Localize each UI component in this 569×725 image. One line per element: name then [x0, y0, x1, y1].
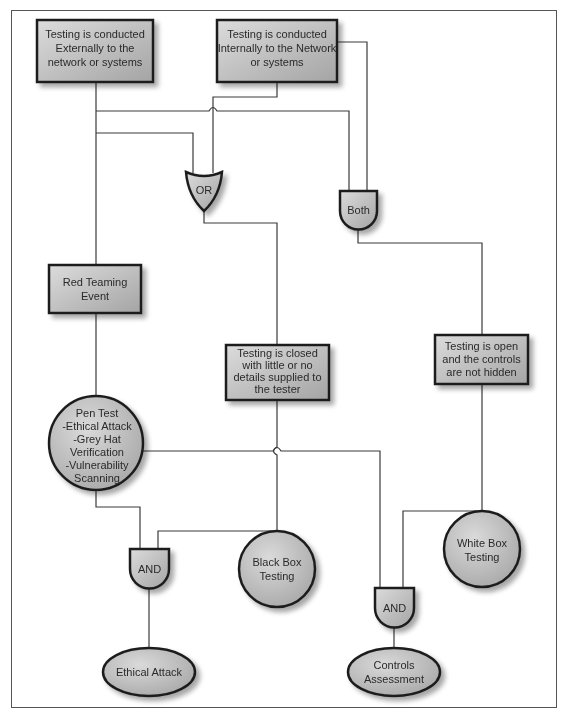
box-closed-line-4: the tester — [255, 383, 301, 395]
box-closed-line-2: with little or no — [241, 359, 312, 371]
box-open-line-3: are not hidden — [446, 366, 516, 378]
box-internal-testing: Testing is conducted Internally to the N… — [217, 20, 337, 82]
gate-or: OR — [186, 172, 222, 211]
gate-and-right: AND — [375, 588, 414, 628]
connector-internal-to-both — [337, 42, 367, 192]
gate-both-label: Both — [347, 204, 370, 216]
box-closed-line-1: Testing is closed — [237, 347, 318, 359]
box-closed-line-3: details supplied to — [233, 371, 321, 383]
connector-pentest-to-and-left — [96, 489, 140, 550]
connector-or-to-closed — [204, 211, 277, 345]
controls-assessment-line-2: Assessment — [364, 673, 424, 685]
connector-closed-to-blackbox — [274, 400, 278, 530]
box-internal-line-3: or systems — [250, 56, 304, 68]
white-box-line-2: Testing — [465, 551, 500, 563]
circle-black-box-testing: Black Box Testing — [239, 531, 315, 607]
box-red-team-line-2: Event — [81, 290, 109, 302]
black-box-line-1: Black Box — [253, 556, 302, 568]
gate-both: Both — [340, 191, 377, 230]
pen-test-line-3: -Grey Hat — [73, 433, 121, 445]
controls-assessment-line-1: Controls — [374, 659, 415, 671]
gate-or-label: OR — [196, 184, 213, 196]
ellipse-controls-assessment: Controls Assessment — [348, 648, 440, 696]
connector-external-to-both — [96, 108, 349, 193]
connector-internal-to-or — [213, 82, 277, 173]
box-external-line-2: Externally to the — [56, 42, 135, 54]
box-open-testing: Testing is open and the controls are not… — [435, 335, 528, 384]
box-open-line-1: Testing is open — [445, 340, 518, 352]
ethical-attack-label: Ethical Attack — [116, 666, 183, 678]
pen-test-line-2: -Ethical Attack — [62, 420, 132, 432]
box-external-line-3: network or systems — [48, 56, 143, 68]
box-open-line-2: and the controls — [442, 353, 521, 365]
circle-white-box-testing: White Box Testing — [444, 511, 520, 587]
pen-test-line-6: Scanning — [74, 472, 120, 484]
pen-test-line-4: Verification — [70, 446, 124, 458]
gate-and-left-label: AND — [138, 563, 161, 575]
black-box-line-2: Testing — [260, 570, 295, 582]
pen-test-line-5: -Vulnerability — [65, 459, 129, 471]
box-red-team-line-1: Red Teaming — [63, 276, 128, 288]
box-external-line-1: Testing is conducted — [45, 28, 145, 40]
gate-and-left: AND — [130, 549, 169, 589]
pen-test-line-1: Pen Test — [76, 407, 119, 419]
testing-types-diagram: Testing is conducted Externally to the n… — [0, 0, 569, 725]
gate-and-right-label: AND — [383, 602, 406, 614]
connector-both-to-open — [358, 230, 482, 335]
circle-pen-test: Pen Test -Ethical Attack -Grey Hat Verif… — [49, 396, 143, 490]
box-red-teaming: Red Teaming Event — [49, 265, 141, 313]
box-closed-testing: Testing is closed with little or no deta… — [226, 345, 329, 400]
connector-external-to-or — [96, 133, 193, 173]
box-internal-line-1: Testing is conducted — [227, 28, 327, 40]
box-internal-line-2: Internally to the Network — [218, 42, 337, 54]
box-external-testing: Testing is conducted Externally to the n… — [37, 20, 153, 82]
ellipse-ethical-attack: Ethical Attack — [103, 648, 195, 696]
white-box-line-1: White Box — [457, 537, 508, 549]
